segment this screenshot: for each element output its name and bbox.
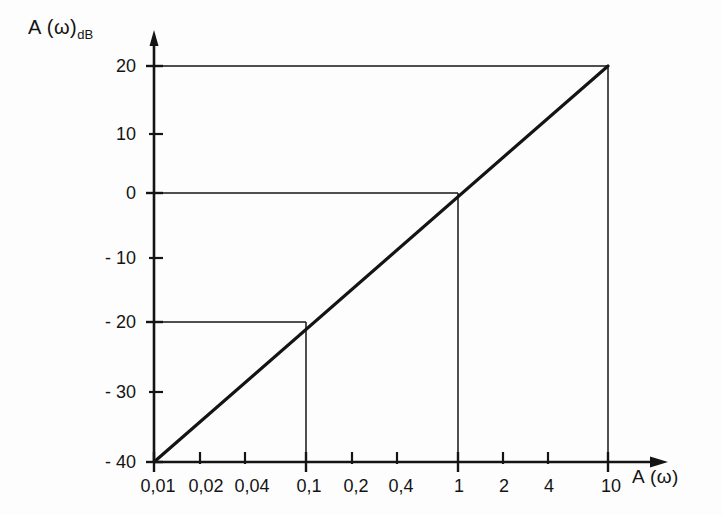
x-tick-label-0-02: 0,02 bbox=[188, 476, 223, 497]
vertical-guides bbox=[306, 66, 608, 462]
y-tick-label-minus40: - 40 bbox=[78, 452, 136, 473]
y-tick-label-10: 10 bbox=[78, 124, 136, 145]
y-axis-title-subscript: dB bbox=[77, 27, 93, 42]
y-tick-label-minus30: - 30 bbox=[78, 382, 136, 403]
figure-canvas: A (ω)dB A (ω) 20 10 0 - 10 - 20 - 30 - 4… bbox=[0, 0, 722, 515]
y-axis bbox=[150, 30, 159, 462]
y-tick-label-minus10: - 10 bbox=[78, 248, 136, 269]
y-tick-label-0: 0 bbox=[78, 183, 136, 204]
x-tick-label-1: 1 bbox=[454, 476, 464, 497]
x-tick-label-0-04: 0,04 bbox=[234, 476, 269, 497]
x-axis bbox=[154, 457, 668, 468]
x-tick-label-0-1: 0,1 bbox=[296, 476, 321, 497]
horizontal-guides bbox=[154, 66, 608, 322]
y-tick-label-minus20: - 20 bbox=[78, 312, 136, 333]
x-tick-label-0-4: 0,4 bbox=[388, 476, 413, 497]
y-axis-title-main: A (ω) bbox=[28, 16, 77, 38]
x-tick-label-4: 4 bbox=[544, 476, 554, 497]
x-axis-title: A (ω) bbox=[632, 466, 679, 488]
data-series-line bbox=[154, 66, 608, 462]
y-tick-label-20: 20 bbox=[78, 56, 136, 77]
x-tick-label-10: 10 bbox=[601, 476, 621, 497]
x-tick-label-2: 2 bbox=[499, 476, 509, 497]
x-tick-label-0-2: 0,2 bbox=[343, 476, 368, 497]
y-axis-title: A (ω)dB bbox=[28, 16, 93, 42]
x-tick-label-0-01: 0,01 bbox=[140, 476, 175, 497]
